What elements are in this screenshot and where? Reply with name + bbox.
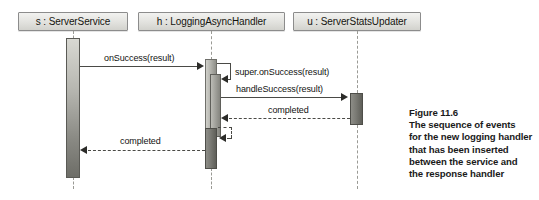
message-label-on-success: onSuccess(result): [104, 54, 174, 63]
caption-line-5: the response handler: [409, 168, 537, 180]
message-line-handle-success: [221, 97, 342, 98]
lifeline-header-server-stats-updater: u : ServerStatsUpdater: [293, 12, 421, 31]
lifeline-label-server-stats-updater: u : ServerStatsUpdater: [307, 17, 407, 27]
arrowhead-handle-success-icon: [341, 93, 348, 101]
caption-line-3: that has been inserted: [409, 144, 537, 156]
message-line-self-return-out: [218, 127, 232, 128]
caption-line-2: for the new logging handler: [409, 131, 537, 143]
lifeline-line-server-stats-updater-bottom: [357, 125, 358, 189]
arrowhead-completed-to-service-icon: [80, 146, 87, 154]
activation-bar-server-stats-updater: [350, 93, 363, 125]
message-line-completed-to-service: [88, 150, 205, 151]
lifeline-line-server-stats-updater-top: [357, 31, 358, 93]
lifeline-line-logging-async-handler-top: [211, 31, 212, 60]
message-line-super-on-success-back: [228, 79, 231, 80]
message-line-completed-to-handler: [229, 118, 350, 119]
message-label-handle-success: handleSuccess(result): [236, 85, 323, 94]
lifeline-line-server-service-bottom: [73, 177, 74, 189]
message-label-completed-to-handler: completed: [268, 106, 309, 115]
message-line-super-on-success-down: [230, 63, 231, 79]
arrowhead-self-return-icon: [219, 134, 226, 142]
figure-caption: Figure 11.6 The sequence of events for t…: [409, 107, 537, 180]
lifeline-label-server-service: s : ServerService: [36, 17, 110, 27]
message-line-super-on-success-out: [217, 63, 231, 64]
lifeline-header-logging-async-handler: h : LoggingAsyncHandler: [138, 12, 285, 31]
caption-line-4: between the service and: [409, 156, 537, 168]
lifeline-header-server-service: s : ServerService: [18, 12, 128, 31]
message-line-self-return-back: [227, 138, 232, 139]
lifeline-line-logging-async-handler-bottom: [211, 168, 212, 189]
caption-line-figure-number: Figure 11.6: [409, 107, 537, 119]
message-line-self-return-down: [231, 127, 232, 138]
message-line-on-success: [80, 66, 198, 67]
activation-bar-logging-lower: [205, 128, 217, 169]
message-label-super-on-success: super.onSuccess(result): [235, 68, 329, 77]
arrowhead-on-success-icon: [197, 62, 204, 70]
arrowhead-super-on-success-icon: [221, 75, 228, 83]
message-label-completed-to-service: completed: [120, 137, 161, 146]
activation-bar-server-service: [66, 38, 80, 178]
caption-line-1: The sequence of events: [409, 119, 537, 131]
arrowhead-completed-to-handler-icon: [221, 114, 228, 122]
lifeline-label-logging-async-handler: h : LoggingAsyncHandler: [157, 17, 266, 27]
sequence-diagram-canvas: s : ServerService h : LoggingAsyncHandle…: [0, 0, 539, 200]
